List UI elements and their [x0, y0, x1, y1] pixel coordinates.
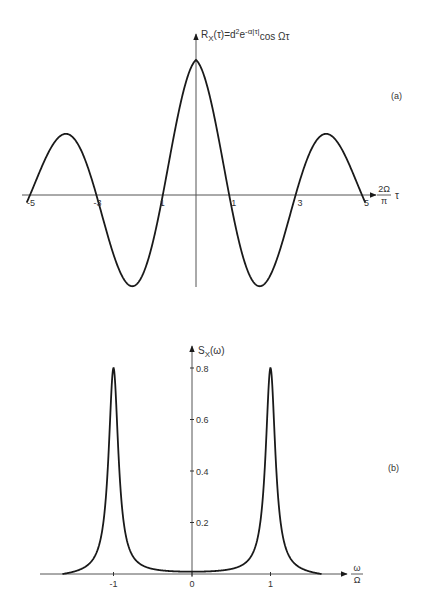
y-tick-label: 0.6: [196, 415, 209, 425]
panel-a: -5-31135 RX(τ)=d2e-α|τ|cos Ωτ 2Ω π τ (a): [22, 27, 402, 287]
svg-text:Ω: Ω: [354, 575, 361, 585]
x-tick-label: 1: [231, 198, 236, 208]
panel-b-x-axis-label: ω Ω: [351, 563, 363, 585]
y-tick-label: 0.8: [196, 364, 209, 374]
panel-a-x-axis-label: 2Ω π τ: [377, 184, 399, 206]
figure-canvas: -5-31135 RX(τ)=d2e-α|τ|cos Ωτ 2Ω π τ (a)…: [0, 0, 423, 594]
x-tick-label: -1: [109, 579, 117, 589]
panel-b-y-ticks: 0.20.40.60.8: [190, 364, 209, 529]
panel-b-label: (b): [388, 463, 399, 473]
x-tick-label: 1: [268, 579, 273, 589]
x-tick-label: -5: [27, 198, 35, 208]
x-tick-label: 5: [364, 198, 369, 208]
svg-text:π: π: [381, 196, 387, 206]
svg-text:τ: τ: [395, 190, 399, 201]
x-tick-label: 3: [298, 198, 303, 208]
panel-a-label: (a): [391, 91, 402, 101]
panel-b-x-ticks: -101: [109, 572, 273, 589]
y-tick-label: 0.2: [196, 518, 209, 528]
x-tick-label: 1: [160, 198, 165, 208]
panel-a-x-tick-labels: -5-31135: [27, 198, 369, 208]
panel-a-y-axis-label: RX(τ)=d2e-α|τ|cos Ωτ: [201, 27, 289, 43]
panel-b-y-axis-label: SX(ω): [198, 345, 224, 359]
y-tick-label: 0.4: [196, 467, 209, 477]
x-tick-label: -3: [93, 198, 101, 208]
x-tick-label: 0: [189, 579, 194, 589]
panel-b: 0.20.40.60.8 -101 SX(ω) ω Ω (b): [40, 345, 399, 589]
svg-text:2Ω: 2Ω: [378, 184, 390, 194]
svg-text:ω: ω: [353, 563, 360, 573]
